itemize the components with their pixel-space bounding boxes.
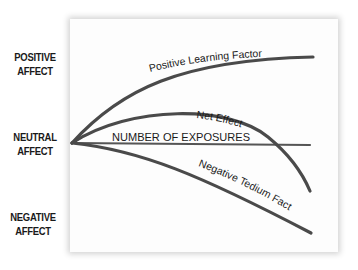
negative-tedium-curve (72, 143, 311, 233)
net-effect-curve (72, 114, 310, 191)
negative-curve-label-text: Negative Tedium Factor (0, 0, 294, 212)
diagram-svg: NUMBER OF EXPOSURES Positive Learning Fa… (0, 0, 358, 270)
net-curve-label: Net Effect (196, 108, 244, 129)
x-axis-label: NUMBER OF EXPOSURES (112, 131, 250, 143)
negative-curve-label: Negative Tedium Factor (0, 0, 294, 212)
net-curve-label-text: Net Effect (196, 108, 244, 129)
